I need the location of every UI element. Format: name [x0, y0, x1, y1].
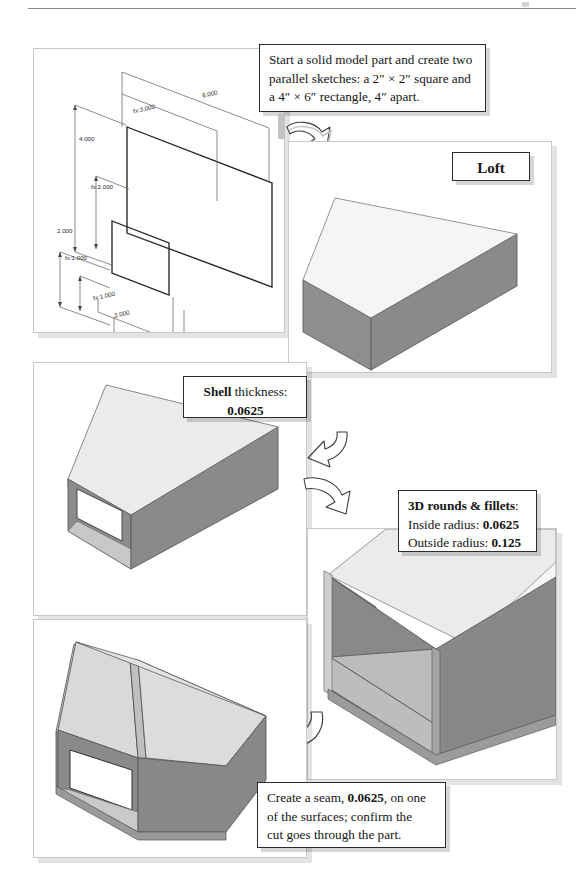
- header-rule: [28, 8, 576, 9]
- dim-label: fx:2.000: [91, 183, 113, 190]
- callout-parallel-sketches: Start a solid model part and create two …: [259, 44, 486, 112]
- callout-line: Shell thickness:: [193, 383, 298, 402]
- callout-line: Inside radius: 0.0625: [408, 516, 528, 535]
- panel-parallel-sketches: 6.000 fx:3.000 4.000 fx:2.000 2.000 fx:1…: [33, 48, 285, 333]
- callout-line: Start a solid model part and create two: [269, 51, 477, 70]
- seam-value: 0.0625: [348, 790, 384, 805]
- outside-radius-label: Outside radius:: [408, 535, 492, 550]
- callout-line: a 4″ × 6″ rectangle, 4″ apart.: [269, 88, 477, 107]
- callout-line: Outside radius: 0.125: [408, 534, 528, 553]
- sketch-svg: [34, 49, 284, 332]
- callout-line: Create a seam, 0.0625, on one: [267, 789, 437, 808]
- inside-radius-label: Inside radius:: [408, 517, 483, 532]
- fillets-render: [308, 529, 556, 779]
- fillets-svg: [308, 529, 556, 779]
- shell-label: Shell: [204, 384, 232, 399]
- shell-label-rest: thickness:: [231, 384, 287, 399]
- callout-loft-label: Loft: [477, 160, 505, 176]
- dim-label: 4.000: [79, 135, 94, 142]
- outside-radius-value: 0.125: [492, 535, 522, 550]
- callout-rounds-fillets: 3D rounds & fillets: Inside radius: 0.06…: [398, 490, 537, 552]
- fillets-title-suffix: :: [515, 498, 519, 513]
- seam-text-a: Create a seam,: [267, 790, 348, 805]
- callout-line: of the surfaces; confirm the: [267, 808, 437, 827]
- sketch-drawing: [34, 49, 284, 332]
- inside-radius-value: 0.0625: [483, 517, 519, 532]
- callout-loft: Loft: [452, 152, 530, 181]
- fillets-title: 3D rounds & fillets: [408, 498, 515, 513]
- panel-rounds-fillets: [307, 528, 557, 780]
- arrow-shell-to-fillets: [300, 473, 356, 517]
- callout-line: cut goes through the part.: [267, 826, 437, 845]
- callout-seam: Create a seam, 0.0625, on one of the sur…: [257, 782, 446, 848]
- header-rule-mark: [522, 2, 529, 7]
- callout-line: 0.0625: [193, 402, 298, 421]
- dim-label: fx:1.000: [65, 254, 87, 261]
- arrow-icon: [300, 473, 356, 517]
- dim-label: 2.000: [57, 227, 72, 234]
- callout-line: parallel sketches: a 2″ × 2″ square and: [269, 70, 477, 89]
- callout-line: 3D rounds & fillets:: [408, 497, 528, 516]
- seam-text-b: , on one: [384, 790, 426, 805]
- callout-shell-thickness: Shell thickness: 0.0625: [183, 376, 307, 418]
- shell-thickness-value: 0.0625: [227, 403, 263, 418]
